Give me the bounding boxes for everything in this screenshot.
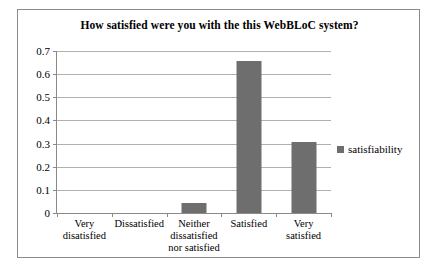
x-axis-labels: VerydisatisfiedDissatisfiedNeitherdissat… [57,218,331,254]
legend: satisfiability [337,143,402,155]
y-tick-label: 0.5 [36,91,50,103]
chart-frame: How satisfied were you with the this Web… [17,9,420,258]
legend-swatch-satisfiability [337,146,344,153]
bar-slot [112,51,167,213]
x-tick-mark [331,213,332,217]
x-axis-ticks [57,213,331,217]
y-tick-label: 0.2 [36,161,50,173]
bar-slot [276,51,331,213]
plot-area: 00.10.20.30.40.50.60.7 VerydisatisfiedDi… [57,51,331,213]
bar-slot [221,51,276,213]
bar [236,61,261,213]
chart-title: How satisfied were you with the this Web… [18,19,421,31]
x-axis-label: Dissatisfied [112,218,167,254]
y-tick-label: 0.4 [36,114,50,126]
bar [181,203,206,213]
x-tick-mark [276,213,277,217]
x-axis-label: Verysatisfied [276,218,331,254]
y-tick-label: 0.7 [36,45,50,57]
x-tick-mark [112,213,113,217]
y-tick-label: 0.1 [36,184,50,196]
y-tick-label: 0.6 [36,68,50,80]
x-tick-mark [221,213,222,217]
legend-label-satisfiability: satisfiability [348,143,402,155]
x-axis-label: Satisfied [221,218,276,254]
bars-layer [57,51,331,213]
bar-slot [167,51,222,213]
bar [291,142,316,213]
y-tick-label: 0 [45,207,51,219]
y-tick-label: 0.3 [36,138,50,150]
bar-slot [57,51,112,213]
x-tick-mark [57,213,58,217]
x-tick-mark [167,213,168,217]
x-axis-label: Verydisatisfied [57,218,112,254]
x-axis-label: Neitherdissatisfiednor satisfied [167,218,222,254]
